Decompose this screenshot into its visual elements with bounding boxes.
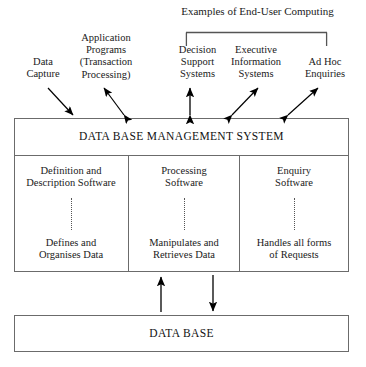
database-title: DATA BASE bbox=[14, 327, 349, 339]
end-user-computing-bracket-label: Examples of End-User Computing bbox=[169, 5, 346, 18]
source-label-ad-hoc-enquiries: Ad Hoc Enquiries bbox=[289, 56, 361, 80]
column-top-enquiry: Enquiry Software bbox=[241, 165, 347, 190]
arrow-ad-hoc-enquiries bbox=[288, 88, 318, 115]
column-dotted-connector-2 bbox=[184, 198, 185, 230]
column-dotted-connector-1 bbox=[71, 198, 72, 230]
column-bottom-manipulates-retrieves: Manipulates and Retrieves Data bbox=[130, 237, 238, 262]
source-label-application-programs: Application Programs (Transaction Proces… bbox=[62, 32, 150, 81]
arrow-data-capture bbox=[48, 88, 73, 115]
source-label-executive-information-systems: Executive Information Systems bbox=[215, 44, 297, 81]
column-top-processing: Processing Software bbox=[130, 165, 238, 190]
dbms-header-divider bbox=[14, 155, 349, 156]
column-divider-1 bbox=[128, 155, 129, 272]
column-bottom-handles-requests: Handles all forms of Requests bbox=[241, 237, 347, 262]
column-divider-2 bbox=[239, 155, 240, 272]
arrow-application-programs bbox=[104, 88, 124, 115]
column-bottom-defines-organises: Defines and Organises Data bbox=[16, 237, 126, 262]
dbms-architecture-diagram: Examples of End-User Computing Data Capt… bbox=[0, 0, 366, 367]
arrow-executive-information-systems bbox=[232, 88, 258, 115]
column-dotted-connector-3 bbox=[294, 198, 295, 230]
column-top-definition-description: Definition and Description Software bbox=[16, 165, 126, 190]
dbms-title: DATA BASE MANAGEMENT SYSTEM bbox=[14, 130, 349, 142]
